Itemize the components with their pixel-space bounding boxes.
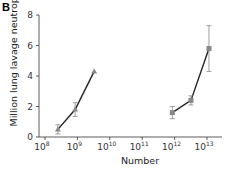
- y-tick-label: 2: [27, 102, 33, 112]
- chart-plot-area: 024681081091010101110121013: [0, 0, 228, 170]
- square-marker: [206, 46, 211, 51]
- triangle-marker: [72, 107, 78, 112]
- x-tick-label: 1012: [162, 140, 181, 152]
- x-tick-label: 109: [67, 140, 82, 152]
- y-tick-label: 0: [27, 132, 33, 142]
- y-tick-label: 8: [27, 10, 33, 20]
- x-tick-label: 1011: [130, 140, 149, 152]
- x-tick-label: 108: [34, 140, 49, 152]
- x-tick-label: 1010: [97, 140, 116, 152]
- triangle-marker: [91, 68, 97, 73]
- series-line-1: [58, 71, 94, 129]
- y-tick-label: 4: [27, 71, 33, 81]
- y-tick-label: 6: [27, 41, 33, 51]
- square-marker: [188, 98, 193, 103]
- x-tick-label: 1013: [194, 140, 213, 152]
- square-marker: [170, 110, 175, 115]
